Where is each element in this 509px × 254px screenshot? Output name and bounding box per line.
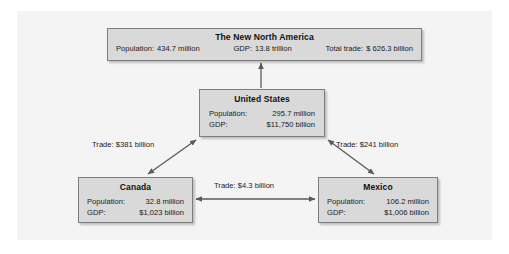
node-canada-title: Canada bbox=[87, 182, 184, 192]
edge-label-canada-us: Trade: $381 billion bbox=[92, 140, 154, 149]
row-gdp-label: GDP: bbox=[87, 207, 139, 218]
stat-population: Population: 434.7 million bbox=[116, 44, 200, 53]
row-gdp: GDP: $1,023 billion bbox=[87, 207, 184, 218]
edge-label-us-mexico: Trade: $241 billion bbox=[336, 140, 398, 149]
row-population-value: 295.7 million bbox=[272, 108, 315, 119]
node-north-america-title: The New North America bbox=[108, 32, 421, 42]
edge-label-canada-mexico: Trade: $4.3 billion bbox=[214, 181, 274, 190]
node-north-america[interactable]: The New North America Population: 434.7 … bbox=[107, 28, 422, 61]
row-population: Population: 295.7 million bbox=[209, 108, 315, 119]
connector-canada-us bbox=[148, 140, 196, 174]
node-canada[interactable]: Canada Population: 32.8 million GDP: $1,… bbox=[78, 177, 193, 223]
stat-total-trade-label: Total trade: bbox=[326, 44, 364, 53]
stat-population-value: 434.7 million bbox=[157, 44, 200, 53]
node-north-america-stats: Population: 434.7 million GDP: 13.8 tril… bbox=[108, 44, 421, 53]
diagram-root: The New North America Population: 434.7 … bbox=[0, 0, 509, 254]
node-mexico-rows: Population: 106.2 million GDP: $1,006 bi… bbox=[327, 196, 429, 218]
stat-total-trade: Total trade: $ 626.3 billion bbox=[326, 44, 413, 53]
row-gdp: GDP: $11,750 billion bbox=[209, 119, 315, 130]
node-united-states-rows: Population: 295.7 million GDP: $11,750 b… bbox=[209, 108, 315, 130]
row-gdp-value: $1,006 billion bbox=[384, 207, 429, 218]
row-gdp-value: $1,023 billion bbox=[139, 207, 184, 218]
node-mexico-title: Mexico bbox=[327, 182, 429, 192]
row-population-label: Population: bbox=[87, 196, 145, 207]
row-gdp-label: GDP: bbox=[209, 119, 267, 130]
row-gdp-label: GDP: bbox=[327, 207, 384, 218]
stat-population-label: Population: bbox=[116, 44, 154, 53]
node-mexico[interactable]: Mexico Population: 106.2 million GDP: $1… bbox=[318, 177, 438, 223]
row-population-label: Population: bbox=[327, 196, 385, 207]
stat-gdp-value: 13.8 trillion bbox=[255, 44, 292, 53]
row-population-label: Population: bbox=[209, 108, 272, 119]
row-population-value: 106.2 million bbox=[385, 196, 429, 207]
stat-gdp: GDP: 13.8 trillion bbox=[233, 44, 291, 53]
row-population-value: 32.8 million bbox=[145, 196, 184, 207]
row-gdp-value: $11,750 billion bbox=[267, 119, 315, 130]
node-united-states-title: United States bbox=[209, 94, 315, 104]
node-united-states[interactable]: United States Population: 295.7 million … bbox=[199, 89, 325, 137]
node-canada-rows: Population: 32.8 million GDP: $1,023 bil… bbox=[87, 196, 184, 218]
row-population: Population: 106.2 million bbox=[327, 196, 429, 207]
stat-total-trade-value: $ 626.3 billion bbox=[366, 44, 413, 53]
row-population: Population: 32.8 million bbox=[87, 196, 184, 207]
row-gdp: GDP: $1,006 billion bbox=[327, 207, 429, 218]
stat-gdp-label: GDP: bbox=[233, 44, 252, 53]
